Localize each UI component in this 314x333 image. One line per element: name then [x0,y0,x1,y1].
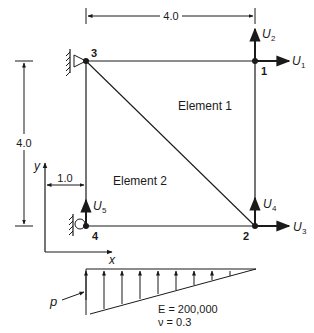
poisson-label: ν = 0.3 [158,316,191,328]
dof-u5: U 5 [86,199,107,226]
svg-text:U: U [263,197,272,211]
fem-diagram: 4.0 4.0 3 1 [0,0,314,333]
dof-u3: U 3 [255,220,307,236]
mesh [86,61,255,226]
svg-text:4: 4 [272,204,277,213]
left-dimension-label: 4.0 [16,137,31,149]
svg-text:U: U [93,199,102,213]
modulus-label: E = 200,000 [158,303,218,315]
svg-text:3: 3 [302,227,307,236]
svg-text:U: U [262,27,271,41]
distributed-load: p [49,269,256,315]
offset-dimension-label: 1.0 [57,172,72,184]
svg-text:1: 1 [301,61,306,70]
dof-u2: U 2 [255,27,276,61]
top-dimension: 4.0 [86,8,255,24]
roller-support-icon [69,214,85,236]
load-label: p [49,294,57,309]
svg-text:U: U [293,220,302,234]
element-1-label: Element 1 [178,99,232,113]
y-axis-label: y [33,159,41,173]
pin-support-icon [66,49,86,76]
node-4-label: 4 [92,230,99,242]
dof-u4: U 4 [255,197,277,226]
element-2-label: Element 2 [113,174,167,188]
svg-text:5: 5 [102,206,107,215]
x-axis-label: x [108,253,116,267]
node-3-label: 3 [91,47,97,59]
top-dimension-label: 4.0 [163,10,178,22]
left-dimension: 4.0 [15,61,33,226]
node-2-label: 2 [243,230,249,242]
offset-dimension: 1.0 [47,172,84,185]
svg-text:2: 2 [271,34,276,43]
node-1-label: 1 [261,65,267,77]
svg-text:U: U [292,54,301,68]
